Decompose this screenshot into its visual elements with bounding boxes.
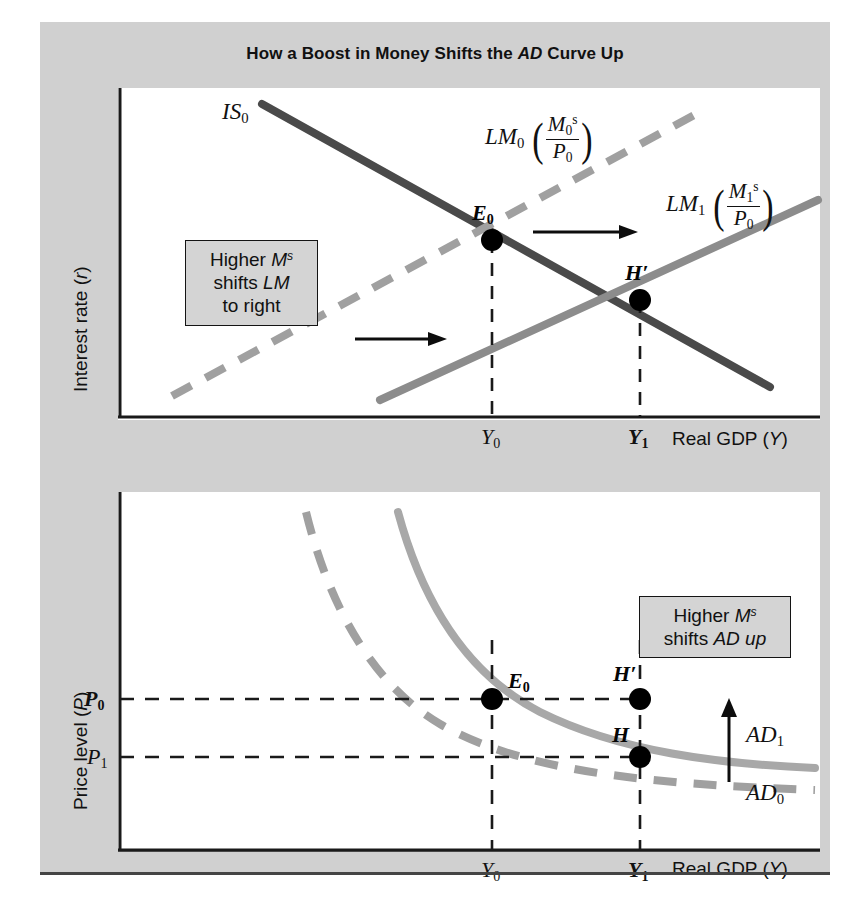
shift-arrow-lower — [355, 332, 447, 346]
lm0-ratio: M0sP0 — [546, 113, 580, 164]
lm1-label-sub: 1 — [698, 202, 705, 218]
lm1-ratio-num: M1s — [727, 180, 761, 206]
bottom-rule — [40, 872, 830, 875]
bottom-ytick-p0: P0 — [84, 686, 105, 714]
top-x-axis-title-symbol: Y — [769, 428, 782, 449]
callout-ad-shift: Higher Ms shifts AD up — [639, 596, 791, 658]
callout-lm-line2: shifts LM — [213, 272, 289, 293]
callout-ad-line1: Higher Ms — [673, 605, 756, 626]
shift-arrow-upper — [533, 225, 638, 239]
lm1-paren-close: ) — [763, 179, 774, 233]
lm0-label-sub: 0 — [517, 135, 524, 151]
ad-panel — [118, 492, 820, 850]
point-label-h-bottom: H — [612, 722, 629, 748]
point-label-hprime-top: H′ — [625, 260, 648, 286]
bottom-xtick-y0: Y0 — [481, 857, 500, 885]
callout-lm-line3: to right — [222, 295, 280, 316]
lm0-paren-open: ( — [532, 112, 543, 166]
point-hprime-top — [629, 289, 651, 311]
lm0-label-text: LM — [485, 124, 517, 149]
ad0-label: AD0 — [746, 780, 784, 808]
lm0-ratio-num: M0s — [546, 113, 580, 139]
top-xtick-y0: Y0 — [481, 424, 500, 452]
lm1-label: LM1 (M1sP0) — [666, 179, 776, 233]
lm0-ratio-den: P0 — [546, 140, 580, 165]
point-label-e0-bottom: E0 — [508, 668, 530, 696]
bottom-ytick-p1: P1 — [87, 744, 108, 772]
top-x-axis-title: Real GDP (Y) — [672, 428, 788, 450]
is0-label-sub: 0 — [241, 110, 248, 126]
lm1-label-text: LM — [666, 191, 698, 216]
bottom-x-axis-title: Real GDP (Y) — [672, 858, 788, 880]
point-e0-top — [481, 229, 503, 251]
bottom-x-axis-title-symbol: Y — [769, 858, 782, 879]
callout-ad-line2: shifts AD up — [664, 628, 766, 649]
top-y-axis-title: Interest rate (r) — [70, 266, 92, 392]
ad1-label: AD1 — [746, 722, 784, 750]
is0-label-text: IS — [222, 99, 241, 124]
lm1-paren-open: ( — [713, 179, 724, 233]
lm0-label: LM0 (M0sP0) — [485, 112, 595, 166]
lm0-paren-close: ) — [582, 112, 593, 166]
lm1-ratio: M1sP0 — [727, 180, 761, 231]
lm1-ratio-den: P0 — [727, 207, 761, 232]
point-label-e0-top: E0 — [472, 200, 494, 228]
bottom-xtick-y1: Y1 — [628, 857, 649, 885]
point-label-hprime-bottom: H′ — [613, 661, 636, 687]
top-y-axis-title-symbol: r — [70, 273, 91, 279]
callout-lm-shift: Higher Ms shifts LM to right — [185, 240, 318, 326]
figure-container: How a Boost in Money Shifts the AD Curve… — [0, 0, 868, 905]
top-xtick-y1: Y1 — [628, 424, 649, 452]
is0-label: IS0 — [222, 99, 249, 127]
callout-lm-line1: Higher Ms — [210, 249, 293, 270]
